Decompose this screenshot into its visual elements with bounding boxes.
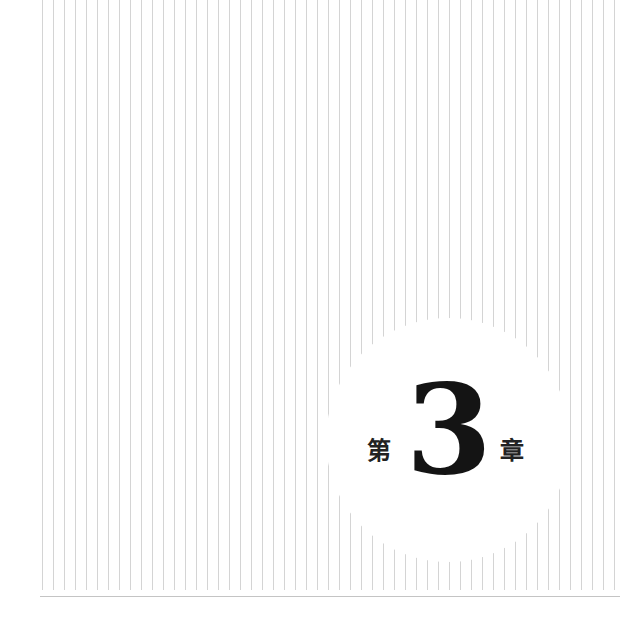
chapter-prefix: 第 — [364, 436, 394, 466]
bottom-rule — [40, 596, 620, 597]
chapter-number: 3 — [400, 370, 496, 490]
chapter-suffix: 章 — [497, 436, 527, 466]
chapter-title-page: 第 3 章 — [0, 0, 625, 630]
